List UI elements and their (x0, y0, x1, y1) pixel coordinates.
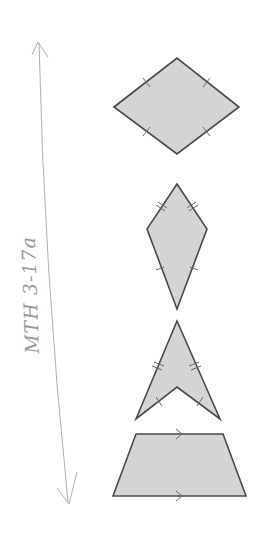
rhombus (114, 58, 239, 154)
trapezoid (113, 429, 246, 501)
dart (136, 321, 220, 419)
handwritten-label: MTH 3-17a (17, 236, 43, 354)
kite (147, 184, 207, 309)
